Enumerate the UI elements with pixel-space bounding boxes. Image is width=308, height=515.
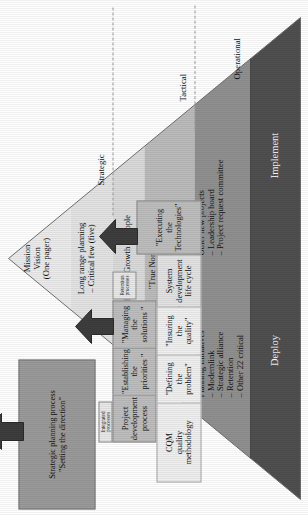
diagram-canvas: Strategic Tactical Operational Mission V… (0, 0, 308, 515)
tier-label-tactical: Tactical (178, 73, 188, 101)
process-box-cqm-quality-methodology[interactable]: CQM quality methodology (156, 402, 201, 482)
process-box-label: "Defining the problem" (164, 362, 193, 395)
process-box-label: "Establishing the priorities " (120, 349, 149, 394)
process-box-managing-the-solutions[interactable]: "Managing the solutions " (112, 300, 156, 347)
process-tag-retention-processes: Retention processes (112, 271, 136, 299)
process-tag-integrated-processes: Integrated processes (98, 401, 112, 442)
flow-arrow-operational (98, 217, 142, 255)
process-box-insuring-the-quality[interactable]: "Insuring the quality" (156, 306, 201, 354)
tier-label-strategic: Strategic (96, 154, 106, 185)
band-text-implement: Implement (268, 105, 280, 205)
process-box-establishing-the-priorities[interactable]: "Establishing the priorities " (112, 347, 156, 394)
process-box-system-development-life-cycle[interactable]: System development life cycle (156, 254, 201, 306)
process-box-strategic-planning-process[interactable]: Strategic planning process "Setting the … (18, 359, 95, 509)
tier-label-operational: Operational (232, 37, 242, 79)
band-text-deploy: Deploy (268, 305, 280, 395)
process-box-label: System development life cycle (164, 259, 193, 302)
process-box-label: "Executing the Technologies" (154, 203, 183, 251)
process-box-executing-the-technologies[interactable]: "Executing the Technologies" (136, 200, 201, 254)
process-box-defining-the-problem[interactable]: "Defining the problem" (156, 354, 201, 402)
process-box-label: "Insuring the quality" (164, 315, 193, 346)
flow-arrow-tactical (74, 307, 118, 345)
rotated-diagram-content: Strategic Tactical Operational Mission V… (0, 0, 308, 515)
process-box-project-development-process[interactable]: Project development process (112, 394, 156, 442)
process-box-label: Project development process (120, 396, 149, 439)
process-box-label: "Managing the solutions " (120, 305, 149, 342)
tier-divider-tactical (194, 5, 195, 129)
flow-arrow-strategic (0, 411, 28, 451)
tier-divider-strategic (112, 7, 113, 215)
process-box-label: Strategic planning process "Setting the … (47, 390, 66, 478)
band-text-mission-vision: Mission Vision (One pager) (22, 208, 51, 308)
band-text-planning-initiatives: Planning Initiatives – Modernlink – Stra… (196, 279, 244, 397)
process-box-label: CQM quality methodology (164, 420, 193, 464)
